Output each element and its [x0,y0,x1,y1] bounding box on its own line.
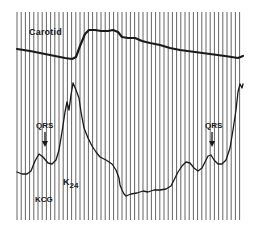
vertical-grid-lines [17,12,240,220]
k24-subscript: 24 [70,181,79,190]
arrowhead-icon [42,141,48,147]
qrs-label-right: QRS [205,122,222,130]
kcg-carotid-figure: Carotid QRS QRS KCG K24 [0,0,258,233]
carotid-label: Carotid [29,28,62,37]
k24-label: K24 [63,178,78,190]
qrs-label-left: QRS [36,122,53,130]
kcg-label: KCG [35,196,53,204]
